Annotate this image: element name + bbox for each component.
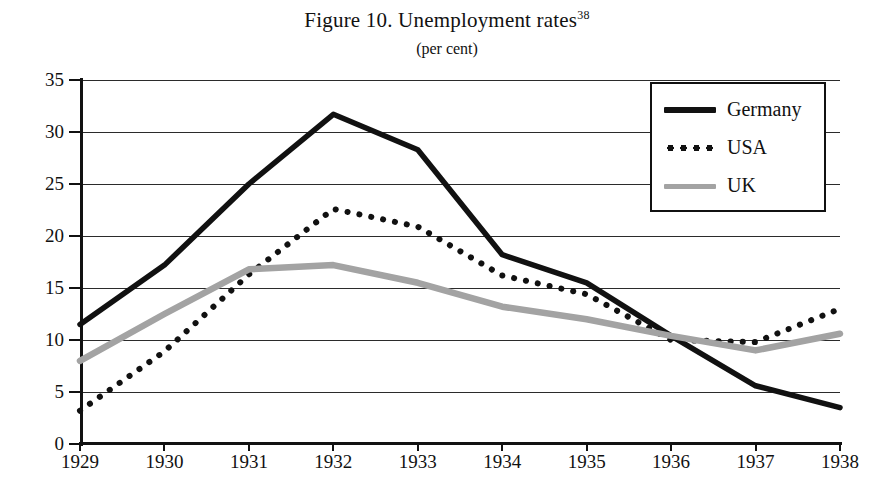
y-axis-tick (69, 183, 81, 185)
x-axis-tick (586, 442, 588, 451)
y-axis-tick-label: 5 (18, 382, 64, 401)
y-axis-tick (69, 79, 81, 81)
x-axis-tick-label: 1929 (45, 452, 115, 471)
legend-label-germany: Germany (727, 99, 801, 119)
x-axis-tick (839, 442, 841, 451)
germany-line-swatch-icon (664, 100, 716, 118)
x-axis-tick-label: 1934 (467, 452, 537, 471)
x-axis-tick-label: 1936 (636, 452, 706, 471)
figure-subtitle: (per cent) (0, 40, 894, 58)
x-axis-tick-label: 1931 (214, 452, 284, 471)
x-axis-line (80, 442, 842, 445)
legend-entry-germany: Germany (664, 96, 801, 122)
figure-title: Figure 10. Unemployment rates38 (0, 8, 894, 33)
y-axis-tick (69, 131, 81, 133)
y-axis-tick (69, 287, 81, 289)
x-axis-tick-label: 1935 (552, 452, 622, 471)
legend-entry-uk: UK (664, 172, 756, 198)
gridline (80, 236, 840, 237)
x-axis-tick (248, 442, 250, 451)
x-axis-tick (755, 442, 757, 451)
y-axis-tick-label: 35 (18, 70, 64, 89)
gridline (80, 392, 840, 393)
y-axis-tick (69, 391, 81, 393)
figure-title-footnote-marker: 38 (577, 8, 589, 22)
figure-title-text: Figure 10. Unemployment rates (304, 8, 577, 32)
legend-label-usa: USA (727, 137, 767, 157)
y-axis-tick-label: 0 (18, 434, 64, 453)
y-axis-tick-label: 15 (18, 278, 64, 297)
x-axis-tick (417, 442, 419, 451)
y-axis-tick-label: 30 (18, 122, 64, 141)
x-axis-tick-label: 1933 (383, 452, 453, 471)
gridline (80, 340, 840, 341)
usa-line-swatch-icon (664, 138, 716, 156)
x-axis-tick (501, 442, 503, 451)
x-axis-tick (163, 442, 165, 451)
legend-label-uk: UK (727, 175, 756, 195)
x-axis-tick-label: 1938 (805, 452, 875, 471)
legend-entry-usa: USA (664, 134, 767, 160)
y-axis-tick (69, 339, 81, 341)
y-axis-tick (69, 235, 81, 237)
x-axis-tick-label: 1937 (721, 452, 791, 471)
x-axis-tick-label: 1932 (298, 452, 368, 471)
gridline (80, 80, 840, 81)
x-axis-tick-label: 1930 (129, 452, 199, 471)
y-axis-tick-label: 25 (18, 174, 64, 193)
y-axis-tick-label: 20 (18, 226, 64, 245)
uk-line-swatch-icon (664, 176, 716, 194)
figure-container: Figure 10. Unemployment rates38 (per cen… (0, 0, 894, 485)
gridline (80, 288, 840, 289)
legend: Germany USA UK (650, 82, 826, 212)
x-axis-tick (79, 442, 81, 451)
x-axis-tick (670, 442, 672, 451)
y-axis-tick-label: 10 (18, 330, 64, 349)
x-axis-tick (332, 442, 334, 451)
